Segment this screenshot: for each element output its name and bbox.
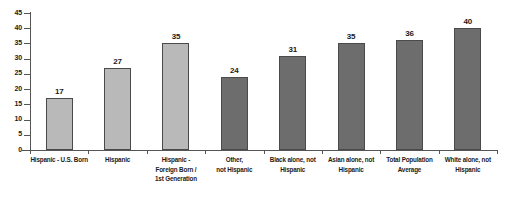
bar: 35 (338, 43, 365, 150)
x-tick-mark (88, 150, 89, 154)
x-tick-mark (439, 150, 440, 154)
bar: 36 (396, 40, 423, 150)
x-tick-mark (380, 150, 381, 154)
bar: 17 (46, 98, 73, 150)
bar-value-label: 17 (55, 87, 64, 96)
y-tick-label: 10 (0, 115, 22, 122)
bar-value-label: 40 (464, 17, 473, 26)
x-tick-mark (205, 150, 206, 154)
y-tick-label: 15 (0, 100, 22, 107)
category-label-line: Hispanic (433, 165, 503, 175)
y-tick-label: 25 (0, 69, 22, 76)
x-tick-mark (264, 150, 265, 154)
y-tick-label: 45 (0, 9, 22, 16)
bar-value-label: 36 (405, 29, 414, 38)
bar-chart: 051015202530354045 1727352431353640 Hisp… (0, 0, 506, 198)
bar-value-label: 31 (288, 45, 297, 54)
y-tick-label: 30 (0, 54, 22, 61)
y-tick-label: 0 (0, 146, 22, 153)
x-tick-mark (497, 150, 498, 154)
x-axis-line (22, 150, 497, 151)
bar: 24 (221, 77, 248, 150)
y-tick-label: 35 (0, 39, 22, 46)
y-tick-label: 20 (0, 85, 22, 92)
y-tick-label: 40 (0, 24, 22, 31)
category-label: White alone, notHispanic (433, 155, 503, 174)
bar: 35 (162, 43, 189, 150)
bars-layer: 1727352431353640 (30, 13, 497, 150)
y-tick-label: 5 (0, 130, 22, 137)
bar: 40 (454, 28, 481, 150)
bar-value-label: 35 (347, 32, 356, 41)
category-label-line: White alone, not (433, 155, 503, 165)
bar: 31 (279, 56, 306, 150)
category-label-line: 1st Generation (141, 174, 211, 184)
bar: 27 (104, 68, 131, 150)
bar-value-label: 35 (172, 32, 181, 41)
bar-value-label: 24 (230, 66, 239, 75)
x-tick-mark (322, 150, 323, 154)
x-tick-mark (30, 150, 31, 154)
x-tick-mark (147, 150, 148, 154)
bar-value-label: 27 (113, 57, 122, 66)
